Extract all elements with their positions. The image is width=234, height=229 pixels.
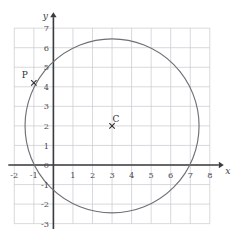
- y-tick-label: 4: [44, 82, 49, 92]
- x-tick-label: 1: [70, 170, 75, 180]
- y-tick-label: 1: [44, 141, 49, 151]
- origin-label: 0: [44, 160, 49, 170]
- y-tick-label: 2: [44, 121, 49, 131]
- y-tick-label: 5: [44, 62, 49, 72]
- x-tick-label: 8: [207, 170, 212, 180]
- figure-canvas: -2-11234567876543210-1-2-3 PC xy: [0, 0, 234, 229]
- x-tick-label: 6: [168, 170, 173, 180]
- x-tick-label: 2: [90, 170, 95, 180]
- x-tick-label: 3: [109, 170, 114, 180]
- point-label: P: [22, 70, 28, 80]
- x-axis-label: x: [225, 165, 231, 176]
- point-c: C: [109, 114, 119, 129]
- point-label: C: [113, 114, 120, 124]
- y-tick-label: -3: [41, 219, 49, 229]
- y-axis-arrowhead: [50, 12, 56, 17]
- y-tick-label: -1: [41, 180, 49, 190]
- x-tick-label: -2: [10, 170, 18, 180]
- x-tick-label: -1: [30, 170, 38, 180]
- x-tick-label: 7: [188, 170, 193, 180]
- x-tick-label: 5: [149, 170, 154, 180]
- y-tick-label: 3: [44, 101, 49, 111]
- x-axis-arrowhead: [219, 162, 224, 168]
- coordinate-plot: -2-11234567876543210-1-2-3 PC xy: [0, 0, 234, 229]
- y-axis-label: y: [42, 10, 49, 21]
- point-p: P: [22, 70, 37, 86]
- axis-name-labels: xy: [42, 10, 231, 176]
- y-tick-label: 6: [44, 43, 49, 53]
- y-tick-label: -2: [41, 199, 49, 209]
- y-tick-label: 7: [44, 23, 49, 33]
- x-tick-label: 4: [129, 170, 134, 180]
- plotted-points: PC: [22, 70, 120, 129]
